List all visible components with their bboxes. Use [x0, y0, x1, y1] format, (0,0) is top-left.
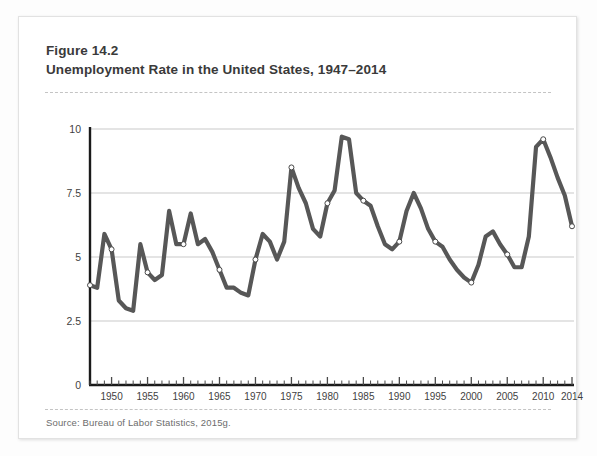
page-background: Figure 14.2 Unemployment Rate in the Uni… [0, 0, 597, 456]
data-point-1985 [361, 198, 366, 203]
data-point-1975 [289, 165, 294, 170]
x-axis-label-9: 1995 [424, 391, 447, 402]
data-point-1990 [397, 239, 402, 244]
chart-plot-area: 02.557.510195019551960196519701975198019… [19, 17, 597, 456]
divider-bottom [45, 409, 551, 410]
data-point-1980 [325, 201, 330, 206]
data-point-1960 [181, 242, 186, 247]
data-point-1947 [88, 283, 93, 288]
x-axis-label-12: 2010 [532, 391, 555, 402]
data-point-1970 [253, 257, 258, 262]
x-axis-label-2: 1960 [172, 391, 195, 402]
y-axis-label-1: 2.5 [66, 315, 81, 327]
data-point-2000 [469, 280, 474, 285]
x-axis-label-6: 1980 [316, 391, 339, 402]
unemployment-line-chart: 02.557.510195019551960196519701975198019… [19, 17, 597, 456]
page-title: Unemployment Rate in the United States, … [46, 60, 546, 79]
x-axis-label-10: 2000 [460, 391, 483, 402]
data-point-1955 [145, 270, 150, 275]
x-axis-label-1: 1955 [136, 391, 159, 402]
y-axis-label-2: 5 [75, 251, 81, 263]
data-series-line [90, 137, 572, 311]
y-axis-label-0: 0 [75, 379, 81, 391]
source-note: Source: Bureau of Labor Statistics, 2015… [46, 417, 231, 428]
figure-card: Figure 14.2 Unemployment Rate in the Uni… [18, 16, 577, 439]
figure-number: Figure 14.2 [46, 41, 546, 60]
x-axis-label-5: 1975 [280, 391, 303, 402]
data-point-2010 [541, 137, 546, 142]
figure-heading: Figure 14.2 Unemployment Rate in the Uni… [46, 41, 546, 79]
data-point-1950 [109, 247, 114, 252]
x-axis-label-3: 1965 [208, 391, 231, 402]
data-point-1965 [217, 267, 222, 272]
data-point-2014 [570, 224, 575, 229]
x-axis-label-8: 1990 [388, 391, 411, 402]
x-axis-label-4: 1970 [244, 391, 267, 402]
data-point-2005 [505, 252, 510, 257]
y-axis-label-3: 7.5 [66, 187, 81, 199]
divider-top [45, 92, 551, 93]
y-axis-label-4: 10 [69, 123, 81, 135]
x-axis-label-0: 1950 [100, 391, 123, 402]
x-axis-label-7: 1985 [352, 391, 375, 402]
x-axis-label-11: 2005 [496, 391, 519, 402]
data-point-1995 [433, 239, 438, 244]
x-axis-label-13: 2014 [561, 391, 584, 402]
